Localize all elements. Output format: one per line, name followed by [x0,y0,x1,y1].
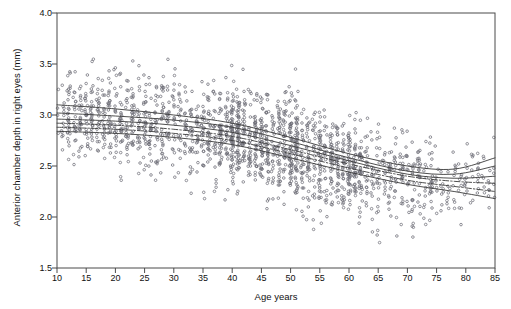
data-point [277,197,280,200]
data-point [113,156,116,159]
data-point [184,91,187,94]
data-point [283,131,286,134]
data-point [242,68,245,71]
data-point [425,140,428,143]
data-point [102,146,105,149]
data-point [446,199,449,202]
data-point [107,94,110,97]
data-point [167,58,170,61]
fitted-curve [57,113,495,174]
data-point [401,129,404,132]
data-point [84,110,87,113]
data-point [299,166,302,169]
data-point [431,158,434,161]
data-point [232,172,235,175]
data-point [383,163,386,166]
cut-off-running-head [300,0,505,3]
data-point [297,90,300,93]
data-point [66,74,69,77]
data-point [436,190,439,193]
data-point [171,164,174,167]
data-point [383,193,386,196]
data-point [308,180,311,183]
data-point [215,178,218,181]
data-point [388,208,391,211]
data-point [323,116,326,119]
data-point [166,89,169,92]
data-point [243,113,246,116]
data-point [313,174,316,177]
data-point [143,168,146,171]
data-point [144,164,147,167]
data-point [323,170,326,173]
data-point [488,206,491,209]
data-point [453,207,456,210]
data-point [66,137,69,140]
data-point [278,121,281,124]
data-point [177,105,180,108]
data-point [272,164,275,167]
data-point [173,99,176,102]
data-point [434,145,437,148]
data-point [413,163,416,166]
data-point [359,211,362,214]
data-point [96,136,99,139]
data-point [103,116,106,119]
data-point [440,209,443,212]
data-point [301,181,304,184]
data-point [354,128,357,131]
data-point [354,118,357,121]
data-point [290,92,293,95]
data-point [253,99,256,102]
data-point [422,206,425,209]
data-point [232,93,235,96]
data-point [207,83,210,86]
x-tick-label: 10 [45,274,69,283]
data-point [329,140,332,143]
x-tick-label: 45 [249,274,273,283]
data-point [202,105,205,108]
data-point [394,143,397,146]
data-point [107,109,110,112]
data-point [401,156,404,159]
data-point [173,89,176,92]
data-point [405,146,408,149]
data-point [173,83,176,86]
data-point [109,82,112,85]
data-point [90,88,93,91]
data-point [160,158,163,161]
data-point [393,127,396,130]
data-point [312,228,315,231]
data-point [447,170,450,173]
data-point [209,138,212,141]
data-point [139,146,142,149]
data-point [243,98,246,101]
data-point [108,146,111,149]
data-point [325,194,328,197]
data-point [272,177,275,180]
data-point [97,88,100,91]
data-point [145,83,148,86]
data-point [378,162,381,165]
data-point [430,164,433,167]
x-tick-label: 25 [133,274,157,283]
data-point [366,192,369,195]
data-point [229,171,232,174]
data-point [79,85,82,88]
data-point [390,215,393,218]
data-point [288,115,291,118]
data-point [235,156,238,159]
data-point [256,99,259,102]
data-point [300,112,303,115]
data-point [115,144,118,147]
data-point [401,196,404,199]
data-point [197,125,200,128]
data-point [227,188,230,191]
data-point [424,195,427,198]
data-point [354,132,357,135]
data-point [85,128,88,131]
data-point [232,183,235,186]
data-point [150,174,153,177]
data-point [343,122,346,125]
data-point [115,74,118,77]
